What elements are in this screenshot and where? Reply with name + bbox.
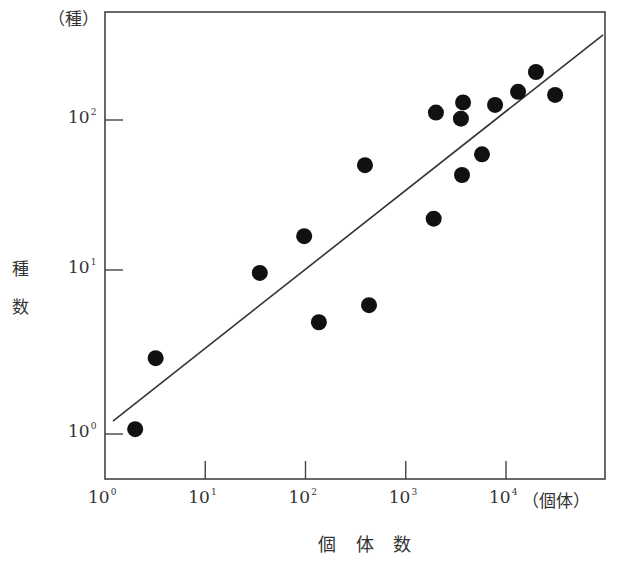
x-unit-label: （個体） (522, 487, 590, 512)
data-point (311, 314, 327, 330)
y-tick-label: 100 (68, 421, 96, 441)
y-unit-label: （種） (48, 5, 99, 30)
data-point (510, 84, 526, 100)
data-point (528, 64, 544, 80)
data-point (361, 297, 377, 313)
scatter-plot (0, 0, 618, 570)
x-tick-label: 103 (389, 487, 417, 507)
y-tick-label: 101 (68, 257, 96, 277)
x-tick-label: 104 (489, 487, 517, 507)
x-tick-label: 101 (188, 487, 216, 507)
data-point (252, 265, 268, 281)
regression-line (113, 35, 603, 421)
data-point (296, 228, 312, 244)
data-point (454, 167, 470, 183)
data-points (127, 64, 563, 437)
y-axis-ticks (105, 120, 123, 434)
data-point (357, 157, 373, 173)
data-point (474, 146, 490, 162)
x-tick-label: 100 (88, 487, 116, 507)
data-point (426, 211, 442, 227)
data-point (547, 87, 563, 103)
data-point (453, 111, 469, 127)
data-point (148, 350, 164, 366)
x-axis-title: 個 体 数 (318, 530, 411, 556)
x-axis-ticks (205, 461, 506, 479)
data-point (487, 97, 503, 113)
data-point (428, 105, 444, 121)
y-tick-label: 102 (68, 107, 96, 127)
data-point (455, 94, 471, 110)
x-tick-label: 102 (289, 487, 317, 507)
y-axis-title-char-1: 種 (12, 255, 29, 280)
data-point (127, 421, 143, 437)
plot-frame (105, 12, 605, 479)
y-axis-title-char-2: 数 (12, 293, 29, 318)
